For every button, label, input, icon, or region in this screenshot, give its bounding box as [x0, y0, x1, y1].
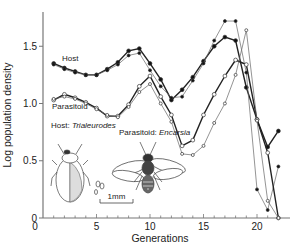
- parasitoid-data-point: [159, 95, 163, 99]
- parasitoid-data-point: [212, 92, 216, 96]
- parasitoid-data-point: [256, 119, 259, 122]
- host-data-point: [63, 68, 66, 71]
- host-data-point: [74, 71, 77, 74]
- parasitoid-data-point: [213, 121, 216, 124]
- y-tick-label: 1.5: [23, 41, 37, 52]
- population-chart: 00.51.01.5 05101520 Generations Log popu…: [0, 0, 297, 250]
- host-data-point: [116, 63, 119, 66]
- x-tick-label: 10: [144, 221, 156, 232]
- parasitoid-species-label: Parasitoid: Encarsia: [119, 128, 191, 137]
- parasitoid-data-point: [159, 102, 162, 105]
- x-tick-label: 15: [198, 221, 210, 232]
- x-tick-label: 5: [94, 221, 100, 232]
- series-line: [52, 58, 280, 220]
- host-data-point: [52, 63, 55, 66]
- x-ticks: 05101520: [32, 214, 278, 232]
- host-data-point: [277, 165, 280, 168]
- scale-bar: 1mm: [100, 192, 133, 203]
- host-data-point: [223, 20, 226, 23]
- host-data-point: [266, 208, 269, 211]
- x-axis-title: Generations: [131, 232, 188, 244]
- parasitoid-data-point: [223, 102, 226, 105]
- scale-bar-label: 1mm: [108, 192, 126, 201]
- host-data-point: [277, 129, 281, 133]
- series-line: [52, 20, 280, 212]
- parasitoid-data-point: [116, 116, 119, 119]
- parasitoid-label: Parasitoid: [52, 102, 88, 111]
- parasitoid-data-point: [63, 95, 66, 98]
- host-data-point: [180, 88, 184, 92]
- host-data-point: [191, 79, 194, 82]
- whitefly-illustration-icon: [51, 144, 104, 202]
- parasitoid-data-point: [245, 29, 248, 32]
- y-axis-title: Log population density: [1, 62, 13, 168]
- series-group: [52, 20, 280, 220]
- parasitoid-data-point: [181, 152, 184, 155]
- parasitoid-data-point: [170, 113, 174, 117]
- host-data-point: [212, 44, 216, 48]
- parasitoid-data-point: [74, 97, 77, 100]
- host-data-point: [138, 52, 141, 55]
- host-data-point: [95, 73, 98, 76]
- parasitoid-data-point: [234, 73, 237, 76]
- host-data-point: [149, 69, 152, 72]
- host-data-point: [106, 69, 109, 72]
- parasitoid-data-point: [180, 144, 184, 148]
- host-data-point: [159, 78, 163, 82]
- x-tick-label: 20: [251, 221, 263, 232]
- x-tick-label: 0: [32, 221, 38, 232]
- host-data-point: [234, 20, 237, 23]
- parasitoid-data-point: [95, 108, 98, 111]
- parasitoid-data-point: [202, 144, 205, 147]
- parasitoid-data-point: [266, 151, 270, 155]
- host-species-label: Host: Trialeurodes: [51, 121, 116, 130]
- host-data-point: [213, 39, 216, 42]
- host-data-point: [84, 73, 87, 76]
- parasitoid-data-point: [149, 83, 152, 86]
- host-data-point: [256, 188, 259, 191]
- parasitoid-data-point: [170, 120, 173, 123]
- parasitoid-data-point: [191, 154, 194, 157]
- host-data-point: [170, 96, 173, 99]
- parasitoid-data-point: [244, 63, 248, 67]
- y-tick-label: 0.5: [23, 155, 37, 166]
- parasitoid-data-point: [127, 105, 130, 108]
- wasp-illustration-icon: [111, 142, 187, 193]
- parasitoid-data-point: [52, 97, 55, 100]
- host-data-point: [127, 49, 131, 53]
- host-data-point: [127, 54, 130, 57]
- parasitoid-data-point: [266, 199, 269, 202]
- parasitoid-data-point: [223, 74, 227, 78]
- parasitoid-data-point: [277, 217, 280, 220]
- host-data-point: [202, 62, 205, 65]
- host-label: Host: [62, 54, 79, 63]
- host-data-point: [148, 62, 152, 66]
- parasitoid-data-point: [191, 138, 195, 142]
- host-data-point: [181, 95, 184, 98]
- parasitoid-data-point: [234, 58, 238, 62]
- parasitoid-data-point: [106, 113, 109, 116]
- parasitoid-data-point: [138, 91, 141, 94]
- host-data-point: [137, 47, 141, 51]
- parasitoid-data-point: [148, 74, 152, 78]
- host-data-point: [234, 39, 238, 43]
- y-tick-label: 1.0: [23, 98, 37, 109]
- parasitoid-data-point: [202, 113, 206, 117]
- y-ticks: 00.51.01.5: [23, 41, 43, 224]
- parasitoid-data-point: [137, 84, 141, 88]
- host-data-point: [223, 35, 227, 39]
- host-data-point: [159, 85, 162, 88]
